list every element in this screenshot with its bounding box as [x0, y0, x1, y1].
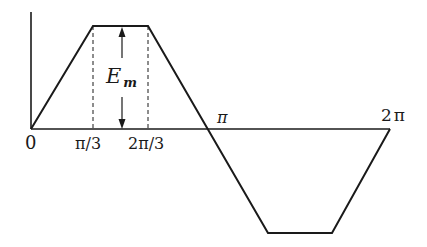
amplitude-main: E [106, 64, 121, 88]
tick-label-pi: π [217, 108, 228, 127]
waveform-diagram [0, 0, 427, 247]
amplitude-subscript: m [123, 75, 137, 90]
tick-label-2pi: 2π [381, 105, 407, 125]
tick-label-2pi-over-3: 2π/3 [128, 134, 164, 153]
tick-label-pi-over-3: π/3 [75, 134, 101, 153]
amplitude-label: Em [106, 64, 137, 88]
tick-label-origin: 0 [25, 132, 36, 153]
